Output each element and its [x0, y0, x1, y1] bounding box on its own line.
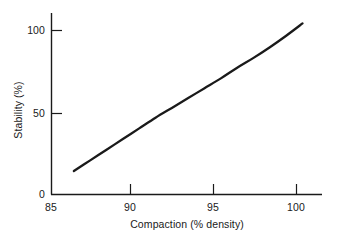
y-tick-label-100: 100: [0, 24, 45, 36]
x-tick-label-100: 100: [287, 201, 305, 213]
y-axis-label: Stability (%): [12, 81, 24, 138]
y-tick-marks: [52, 31, 63, 114]
x-tick-marks: [131, 184, 297, 195]
chart-figure: 100 50 0 85 90 95 100 Stability (%) Comp…: [0, 0, 337, 241]
x-tick-label-90: 90: [124, 201, 136, 213]
x-axis-label: Compaction (% density): [130, 218, 244, 230]
x-tick-label-95: 95: [207, 201, 219, 213]
y-tick-label-0: 0: [0, 188, 45, 200]
x-tick-label-85: 85: [45, 201, 57, 213]
data-line-series: [74, 23, 303, 171]
